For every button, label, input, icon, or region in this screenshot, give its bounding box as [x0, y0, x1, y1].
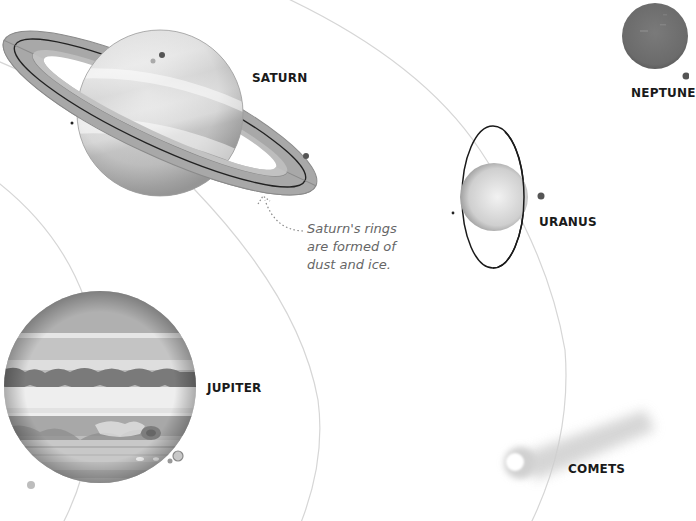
annotation-line-2: are formed of [307, 238, 397, 256]
orbit-jupiter [0, 180, 85, 300]
saturn-planet [0, 2, 334, 224]
comets-label: COMETS [568, 462, 625, 476]
neptune-moon [683, 73, 690, 80]
jupiter-moon [27, 481, 35, 489]
saturn-moon [71, 122, 74, 125]
uranus-moon [452, 212, 455, 215]
orbit-jupiter-lower [62, 475, 82, 521]
saturn-rings-annotation: Saturn's rings are formed of dust and ic… [307, 220, 397, 274]
annotation-line-1: Saturn's rings [307, 220, 397, 238]
uranus-moon [538, 193, 545, 200]
saturn-moon [303, 153, 309, 159]
jupiter-moon [168, 459, 173, 464]
jupiter-label: JUPITER [207, 381, 262, 395]
jupiter-planet [0, 290, 200, 492]
jupiter-moon [173, 451, 183, 461]
uranus-label: URANUS [539, 215, 597, 229]
saturn-label: SATURN [252, 71, 307, 85]
annotation-arrow [258, 196, 303, 231]
saturn-moon [159, 52, 165, 58]
annotation-line-3: dust and ice. [307, 256, 397, 274]
neptune-label: NEPTUNE [631, 86, 696, 100]
neptune-planet [622, 3, 689, 80]
uranus-planet [452, 126, 545, 268]
saturn-moon [151, 59, 156, 64]
